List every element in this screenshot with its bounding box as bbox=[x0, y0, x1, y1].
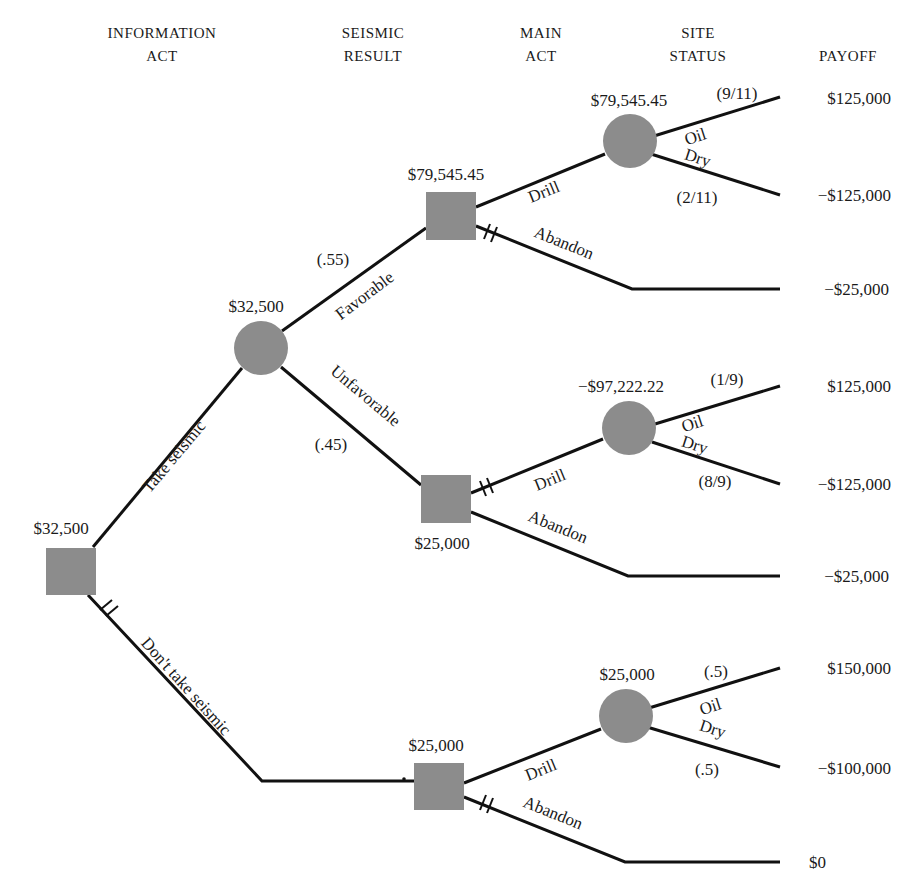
label-unfav-dry: Dry bbox=[679, 432, 710, 458]
label-fav-oil: Oil bbox=[682, 124, 709, 149]
label-fav-abandon: Abandon bbox=[532, 222, 597, 263]
payoff-noseis-oil: $150,000 bbox=[827, 659, 891, 678]
header-main-act-line2: ACT bbox=[525, 48, 557, 64]
payoff-unfav-oil: $125,000 bbox=[827, 377, 891, 396]
header-seismic-result-line1: SEISMIC bbox=[342, 25, 405, 41]
prob-fav-dry: (2/11) bbox=[677, 188, 718, 207]
label-noseis-oil: Oil bbox=[697, 694, 724, 719]
payoffs: $125,000 −$125,000 −$25,000 $125,000 −$1… bbox=[809, 89, 891, 872]
stray-dot bbox=[402, 777, 406, 781]
prob-unfav-dry: (8/9) bbox=[698, 472, 731, 491]
prune-mark-dont-take-seismic-icon bbox=[100, 600, 118, 616]
no-seismic-drill-chance-node bbox=[599, 689, 653, 743]
prob-unfav-oil: (1/9) bbox=[710, 370, 743, 389]
header-main-act-line1: MAIN bbox=[520, 25, 562, 41]
unfavorable-chance-value: −$97,222.22 bbox=[578, 377, 664, 396]
favorable-decision-value: $79,545.45 bbox=[408, 165, 485, 184]
header-payoff: PAYOFF bbox=[819, 48, 877, 64]
unfavorable-decision-value: $25,000 bbox=[414, 534, 469, 553]
payoff-fav-oil: $125,000 bbox=[827, 89, 891, 108]
favorable-drill-chance-node bbox=[603, 114, 657, 168]
branch-fav-abandon bbox=[476, 226, 780, 289]
header-information-act-line2: ACT bbox=[146, 48, 178, 64]
no-seismic-chance-value: $25,000 bbox=[599, 665, 654, 684]
favorable-chance-value: $79,545.45 bbox=[591, 91, 668, 110]
root-decision-node bbox=[46, 548, 96, 595]
label-fav-drill: Drill bbox=[525, 177, 562, 207]
label-unfavorable: Unfavorable bbox=[327, 361, 404, 430]
header-information-act-line1: INFORMATION bbox=[108, 25, 217, 41]
payoff-fav-dry: −$125,000 bbox=[818, 186, 891, 205]
branch-unfav-oil bbox=[655, 386, 780, 424]
root-value: $32,500 bbox=[33, 519, 88, 538]
branch-unfav-abandon bbox=[471, 512, 780, 576]
nodes bbox=[46, 114, 657, 810]
header-site-status-line2: STATUS bbox=[670, 48, 727, 64]
prob-unfavorable: (.45) bbox=[315, 435, 348, 454]
payoff-fav-abandon: −$25,000 bbox=[824, 280, 889, 299]
payoff-unfav-dry: −$125,000 bbox=[818, 475, 891, 494]
branch-dont-take-seismic bbox=[88, 595, 414, 781]
label-fav-dry: Dry bbox=[682, 145, 713, 171]
label-noseis-drill: Drill bbox=[522, 755, 559, 785]
payoff-noseis-abandon: $0 bbox=[809, 853, 826, 872]
node-values: $32,500 $32,500 $79,545.45 $79,545.45 $2… bbox=[33, 91, 667, 755]
label-unfav-abandon: Abandon bbox=[526, 506, 591, 547]
seismic-chance-value: $32,500 bbox=[228, 297, 283, 316]
column-headers: INFORMATION ACT SEISMIC RESULT MAIN ACT … bbox=[108, 25, 877, 64]
header-site-status-line1: SITE bbox=[681, 25, 715, 41]
label-take-seismic: Take seismic bbox=[138, 416, 209, 496]
no-seismic-decision-value: $25,000 bbox=[408, 736, 463, 755]
unfavorable-decision-node bbox=[421, 475, 471, 523]
payoff-noseis-dry: −$100,000 bbox=[818, 759, 891, 778]
label-favorable: Favorable bbox=[332, 268, 398, 324]
prune-mark-noseis-abandon-icon bbox=[480, 795, 493, 813]
seismic-chance-node bbox=[234, 321, 288, 375]
header-seismic-result-line2: RESULT bbox=[344, 48, 402, 64]
unfavorable-drill-chance-node bbox=[602, 401, 656, 455]
decision-tree-diagram: INFORMATION ACT SEISMIC RESULT MAIN ACT … bbox=[0, 0, 911, 894]
label-unfav-drill: Drill bbox=[531, 465, 568, 495]
no-seismic-decision-node bbox=[414, 763, 464, 810]
prob-favorable: (.55) bbox=[317, 250, 350, 269]
favorable-decision-node bbox=[426, 192, 476, 240]
label-noseis-abandon: Abandon bbox=[521, 792, 586, 833]
prob-fav-oil: (9/11) bbox=[717, 84, 758, 103]
branch-noseis-abandon bbox=[464, 797, 780, 862]
prob-noseis-dry: (.5) bbox=[695, 760, 719, 779]
prob-noseis-oil: (.5) bbox=[704, 662, 728, 681]
payoff-unfav-abandon: −$25,000 bbox=[824, 567, 889, 586]
label-dont-take-seismic: Don't take seismic bbox=[137, 634, 235, 740]
label-noseis-dry: Dry bbox=[697, 716, 728, 742]
